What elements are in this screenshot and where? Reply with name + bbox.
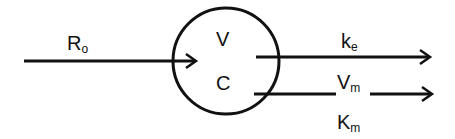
- volume-label: V: [216, 29, 229, 49]
- input-arrow: [24, 54, 196, 68]
- input-rate-label: Ro: [67, 33, 88, 55]
- elimination-constant-label: ke: [341, 31, 358, 53]
- concentration-label: C: [216, 73, 230, 93]
- compartment-diagram: [0, 0, 455, 139]
- vmax-label: Vm: [337, 72, 360, 94]
- km-label: Km: [337, 112, 360, 134]
